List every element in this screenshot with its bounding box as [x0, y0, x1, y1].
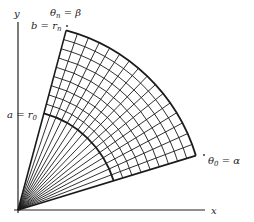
- y-axis-label: y: [13, 8, 20, 19]
- theta-n-label: θn = β: [50, 7, 81, 20]
- radial-line: [18, 30, 66, 210]
- polar-grid-diagram: y x θn = β b = rn a = r0 θ0 = α: [0, 0, 254, 222]
- radial-line: [18, 68, 138, 210]
- alpha-marker-dot: [203, 154, 205, 156]
- polar-grid: [18, 30, 196, 210]
- labels: θn = β b = rn a = r0 θ0 = α: [7, 7, 240, 168]
- b-equals-rn-label: b = rn: [31, 20, 62, 33]
- x-axis-label: x: [211, 205, 217, 216]
- radial-line: [18, 85, 155, 210]
- theta-0-label: θ0 = α: [208, 155, 240, 168]
- beta-marker-dot: [66, 25, 68, 27]
- a-equals-r0-label: a = r0: [7, 109, 37, 122]
- radial-line: [18, 38, 88, 210]
- radial-line: [18, 103, 170, 210]
- radial-line: [18, 144, 192, 210]
- radial-line: [18, 94, 163, 210]
